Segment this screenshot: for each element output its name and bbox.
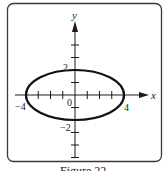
x-axis-label: x: [150, 89, 156, 101]
x-axis: [15, 92, 149, 98]
x-tick-label-4: 4: [124, 102, 129, 113]
y-tick-label-2: 2: [63, 62, 68, 73]
x-axis-arrow-icon: [139, 92, 149, 98]
graph-frame: [8, 4, 162, 162]
y-tick-label-neg2: −2: [60, 122, 71, 133]
origin-label: 0: [67, 97, 72, 108]
x-tick-label-neg4: −4: [15, 101, 26, 112]
y-axis: [72, 21, 78, 157]
ellipse-graph: x y −4 4 2 −2 0 Figure 22: [0, 0, 164, 171]
y-axis-label: y: [71, 9, 77, 21]
ellipse-figure: x y −4 4 2 −2 0 Figure 22: [0, 0, 164, 171]
figure-caption: Figure 22: [60, 164, 106, 171]
y-axis-arrow-icon: [72, 21, 78, 32]
